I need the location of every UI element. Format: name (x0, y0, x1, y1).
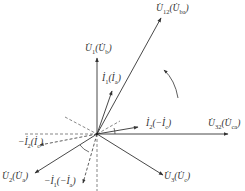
label-u32: U̇32(U̇ca) (208, 119, 240, 130)
diagonal-reference-line-left (65, 117, 97, 134)
label-u12: U̇12(U̇ba) (156, 4, 189, 15)
label-neg-i1: −İ1(−İa) (44, 177, 76, 188)
vector-u3 (97, 134, 163, 175)
label-neg-i2: −İ2(İc) (18, 138, 43, 149)
rotation-direction-arrow-icon (164, 70, 178, 98)
label-u1: U̇1(U̇b) (85, 44, 112, 55)
label-i1: İ1(İa) (102, 74, 121, 85)
label-i2: İ2(−İc) (146, 119, 171, 130)
origin-point (96, 133, 99, 136)
vector-i1 (97, 91, 112, 134)
phasor-diagram (0, 0, 245, 191)
label-u3: U̇3(U̇c) (164, 172, 190, 183)
angle-arc-lower-left (80, 145, 89, 152)
label-u2: U̇2(U̇a) (2, 172, 28, 183)
